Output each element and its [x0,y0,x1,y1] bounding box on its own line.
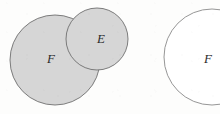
set-label-F-right: F [204,52,212,65]
set-label-F-left: F [47,52,55,65]
set-diagram-figure: F E F [0,0,220,114]
set-label-E: E [97,32,105,45]
left-panel [10,8,128,105]
diagram-canvas [0,0,220,114]
